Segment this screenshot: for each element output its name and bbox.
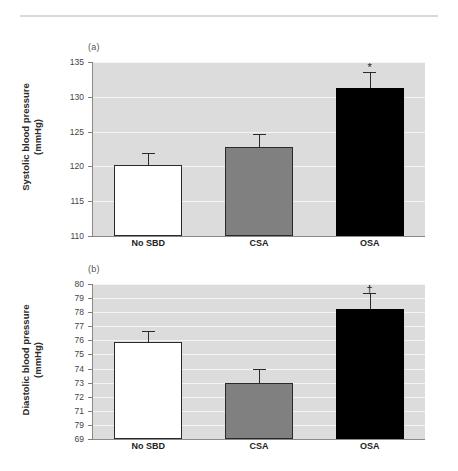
y-tick-label: 71 bbox=[75, 406, 84, 416]
y-tick-label: 130 bbox=[70, 92, 84, 102]
error-bar-stem bbox=[148, 331, 149, 342]
y-axis-tickmark bbox=[88, 166, 93, 167]
y-axis-tick-labels-a: 135130125120115110 bbox=[58, 62, 84, 236]
y-axis-title-a-line1: Systolic blood pressure bbox=[20, 83, 31, 191]
y-tick-label: 72 bbox=[75, 392, 84, 402]
y-axis-tickmark bbox=[88, 354, 93, 355]
error-bar-stem bbox=[259, 134, 260, 147]
bar-osa bbox=[336, 88, 404, 236]
y-tick-label: 77 bbox=[75, 321, 84, 331]
y-axis-tickmark bbox=[88, 326, 93, 327]
y-axis-tickmark bbox=[88, 411, 93, 412]
x-category-label: CSA bbox=[249, 238, 268, 248]
y-tick-label: 115 bbox=[70, 196, 84, 206]
y-axis-title-b-line2: (mmHg) bbox=[32, 280, 44, 440]
gridline bbox=[93, 284, 425, 285]
gridline bbox=[93, 298, 425, 299]
y-axis-title-b: Diastolic blood pressure (mmHg) bbox=[20, 280, 44, 440]
y-axis-tickmark bbox=[88, 312, 93, 313]
error-bar-stem bbox=[370, 293, 371, 309]
y-tick-label: 80 bbox=[75, 279, 84, 289]
y-axis-tickmark bbox=[88, 369, 93, 370]
y-axis-tickmark bbox=[88, 397, 93, 398]
x-axis-line bbox=[92, 439, 425, 440]
significance-marker: † bbox=[367, 284, 373, 295]
y-axis-tickmark bbox=[88, 201, 93, 202]
bar-csa bbox=[225, 383, 293, 439]
y-axis-tick-labels-b: 807978777675747372717969 bbox=[58, 284, 84, 439]
y-tick-label: 75 bbox=[75, 349, 84, 359]
y-axis-title-b-line1: Diastolic blood pressure bbox=[20, 305, 31, 416]
error-bar-stem bbox=[259, 369, 260, 382]
error-bar-cap bbox=[142, 331, 155, 332]
plot-area-b: † bbox=[93, 284, 425, 439]
y-tick-label: 78 bbox=[75, 307, 84, 317]
bar-no-sbd bbox=[114, 342, 182, 439]
x-category-label: OSA bbox=[360, 441, 380, 451]
error-bar-cap bbox=[253, 134, 266, 135]
bar-no-sbd bbox=[114, 165, 182, 236]
y-axis-tickmark bbox=[88, 236, 93, 237]
y-axis-title-a: Systolic blood pressure (mmHg) bbox=[20, 57, 44, 217]
y-axis-line bbox=[92, 284, 93, 439]
panel-label-a: (a) bbox=[88, 42, 100, 52]
significance-marker: * bbox=[368, 62, 372, 73]
chart-panel-a: (a) Systolic blood pressure (mmHg) 13513… bbox=[0, 30, 458, 258]
y-tick-label: 79 bbox=[75, 420, 84, 430]
y-tick-label: 76 bbox=[75, 335, 84, 345]
chart-panel-b: (b) Diastolic blood pressure (mmHg) 8079… bbox=[0, 258, 458, 471]
header-divider bbox=[20, 15, 438, 17]
gridline bbox=[93, 62, 425, 63]
x-category-label: No SBD bbox=[132, 441, 166, 451]
plot-area-a: * bbox=[93, 62, 425, 236]
y-axis-tickmark bbox=[88, 298, 93, 299]
panel-label-b: (b) bbox=[88, 264, 100, 274]
y-tick-label: 125 bbox=[70, 127, 84, 137]
bar-csa bbox=[225, 147, 293, 236]
x-category-label: OSA bbox=[360, 238, 380, 248]
error-bar-cap bbox=[253, 369, 266, 370]
bar-osa bbox=[336, 309, 404, 439]
x-category-label: CSA bbox=[249, 441, 268, 451]
y-axis-tickmark bbox=[88, 340, 93, 341]
x-category-label: No SBD bbox=[132, 238, 166, 248]
y-axis-tickmark bbox=[88, 284, 93, 285]
y-tick-label: 110 bbox=[70, 231, 84, 241]
y-axis-title-a-line2: (mmHg) bbox=[32, 57, 44, 217]
error-bar-cap bbox=[142, 153, 155, 154]
y-tick-label: 135 bbox=[70, 57, 84, 67]
y-tick-label: 73 bbox=[75, 378, 84, 388]
y-axis-tickmark bbox=[88, 439, 93, 440]
y-axis-tickmark bbox=[88, 62, 93, 63]
y-tick-label: 74 bbox=[75, 364, 84, 374]
y-axis-tickmark bbox=[88, 383, 93, 384]
y-axis-tickmark bbox=[88, 425, 93, 426]
y-axis-tickmark bbox=[88, 97, 93, 98]
y-axis-tickmark bbox=[88, 132, 93, 133]
error-bar-stem bbox=[370, 72, 371, 88]
y-tick-label: 69 bbox=[75, 434, 84, 444]
x-axis-line bbox=[92, 236, 425, 237]
y-tick-label: 120 bbox=[70, 161, 84, 171]
error-bar-stem bbox=[148, 153, 149, 165]
y-axis-line bbox=[92, 62, 93, 236]
y-tick-label: 79 bbox=[75, 293, 84, 303]
